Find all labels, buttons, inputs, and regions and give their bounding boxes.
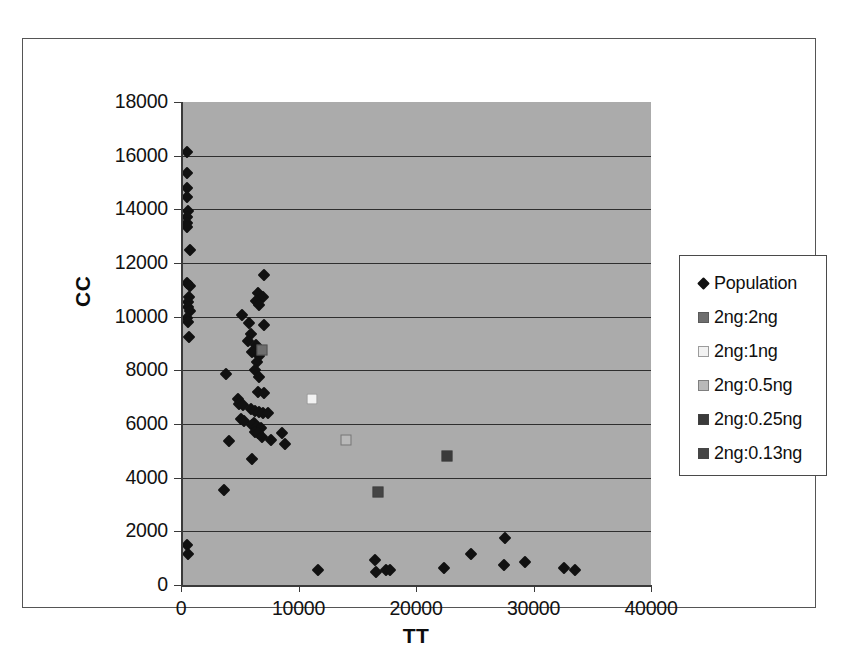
data-point xyxy=(218,483,231,496)
data-point xyxy=(465,548,478,561)
y-tick-label: 18000 xyxy=(76,90,168,113)
figure-frame: 0200040006000800010000120001400016000180… xyxy=(22,38,816,608)
legend-item-1[interactable]: 2ng:2ng xyxy=(680,300,826,334)
legend-item-3[interactable]: 2ng:0.5ng xyxy=(680,368,826,402)
x-tick-label: 10000 xyxy=(244,597,354,620)
plot-area xyxy=(181,102,651,585)
data-point xyxy=(258,269,271,282)
legend-label: 2ng:0.25ng xyxy=(714,409,802,430)
legend-label: 2ng:1ng xyxy=(714,341,778,362)
data-point xyxy=(246,453,259,466)
data-point xyxy=(519,556,532,569)
y-tick-label: 16000 xyxy=(76,144,168,167)
legend-swatch xyxy=(692,279,714,288)
data-point xyxy=(497,559,510,572)
legend-swatch xyxy=(692,380,714,391)
x-tick-label: 0 xyxy=(126,597,236,620)
y-tick-label: 2000 xyxy=(76,519,168,542)
y-tick-mark xyxy=(174,478,181,479)
y-tick-mark xyxy=(174,370,181,371)
y-tick-mark xyxy=(174,585,181,586)
chart-legend: Population2ng:2ng2ng:1ng2ng:0.5ng2ng:0.2… xyxy=(679,255,827,476)
x-tick-label: 20000 xyxy=(361,597,471,620)
y-tick-label: 14000 xyxy=(76,197,168,220)
legend-label: 2ng:2ng xyxy=(714,307,778,328)
data-point xyxy=(181,167,193,180)
data-point xyxy=(312,564,325,577)
data-point xyxy=(257,345,268,356)
y-tick-mark xyxy=(174,209,181,210)
data-point xyxy=(183,330,196,343)
data-point xyxy=(442,451,453,462)
legend-label: Population xyxy=(714,273,797,294)
legend-label: 2ng:0.13ng xyxy=(714,443,802,464)
gridline xyxy=(183,317,651,318)
data-point xyxy=(557,561,570,574)
x-tick-mark xyxy=(416,585,417,592)
data-point xyxy=(437,561,450,574)
data-point xyxy=(222,435,235,448)
square-marker-icon xyxy=(698,346,709,357)
legend-item-4[interactable]: 2ng:0.25ng xyxy=(680,402,826,436)
y-tick-mark xyxy=(174,102,181,103)
x-tick-mark xyxy=(181,585,182,592)
y-tick-mark xyxy=(174,424,181,425)
y-tick-label: 8000 xyxy=(76,358,168,381)
gridline xyxy=(183,209,651,210)
data-point xyxy=(258,318,271,331)
y-tick-mark xyxy=(174,156,181,157)
x-tick-label: 30000 xyxy=(479,597,589,620)
y-tick-label: 12000 xyxy=(76,251,168,274)
legend-swatch xyxy=(692,346,714,357)
data-point xyxy=(368,553,381,566)
data-point xyxy=(184,243,197,256)
square-marker-icon xyxy=(698,312,709,323)
legend-item-2[interactable]: 2ng:1ng xyxy=(680,334,826,368)
gridline xyxy=(183,263,651,264)
y-tick-mark xyxy=(174,263,181,264)
legend-swatch xyxy=(692,414,714,425)
y-tick-mark xyxy=(174,531,181,532)
legend-label: 2ng:0.5ng xyxy=(714,375,792,396)
x-tick-mark xyxy=(534,585,535,592)
data-point xyxy=(369,565,382,578)
data-point xyxy=(181,548,194,561)
x-tick-mark xyxy=(299,585,300,592)
data-point xyxy=(341,435,352,446)
data-point xyxy=(499,532,512,545)
x-tick-mark xyxy=(651,585,652,592)
gridline xyxy=(183,478,651,479)
y-tick-label: 4000 xyxy=(76,466,168,489)
data-point xyxy=(307,393,318,404)
x-axis-title: TT xyxy=(181,624,651,648)
y-axis-title: CC xyxy=(71,276,95,307)
y-tick-mark xyxy=(174,317,181,318)
data-point xyxy=(569,564,582,577)
y-tick-label: 0 xyxy=(76,573,168,596)
data-point xyxy=(181,191,193,204)
gridline xyxy=(183,156,651,157)
square-marker-icon xyxy=(698,414,709,425)
legend-swatch xyxy=(692,312,714,323)
x-tick-label: 40000 xyxy=(596,597,706,620)
diamond-marker-icon xyxy=(697,277,710,290)
square-marker-icon xyxy=(698,448,709,459)
chart-page: 0200040006000800010000120001400016000180… xyxy=(0,0,846,652)
square-marker-icon xyxy=(698,380,709,391)
y-tick-label: 10000 xyxy=(76,305,168,328)
y-tick-label: 6000 xyxy=(76,412,168,435)
legend-item-0[interactable]: Population xyxy=(680,266,826,300)
legend-item-5[interactable]: 2ng:0.13ng xyxy=(680,436,826,470)
data-point xyxy=(373,487,384,498)
gridline xyxy=(183,531,651,532)
data-point xyxy=(279,438,292,451)
legend-swatch xyxy=(692,448,714,459)
